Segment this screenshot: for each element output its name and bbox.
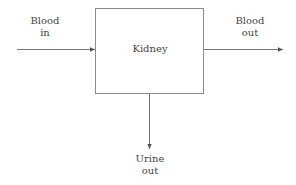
urine-out-label: Urine out xyxy=(125,153,175,177)
urine-out-line2: out xyxy=(125,165,175,177)
kidney-label: Kidney xyxy=(120,43,180,55)
blood-in-line1: Blood xyxy=(20,15,70,27)
blood-out-label: Blood out xyxy=(225,15,275,39)
urine-out-line1: Urine xyxy=(125,153,175,165)
blood-in-line2: in xyxy=(20,27,70,39)
blood-out-line2: out xyxy=(225,27,275,39)
blood-out-line1: Blood xyxy=(225,15,275,27)
blood-in-label: Blood in xyxy=(20,15,70,39)
